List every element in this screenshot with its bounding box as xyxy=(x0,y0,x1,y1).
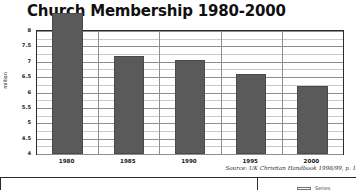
source-note: Source: UK Christian Handbook 1998/99, p… xyxy=(180,164,356,172)
footer-legend-label: Series xyxy=(315,186,330,190)
footer-legend-swatch-icon xyxy=(297,187,311,190)
x-tick-label-1980: 1980 xyxy=(36,157,97,165)
footer-cell-left xyxy=(0,178,257,190)
y-tick-label: 7.5 xyxy=(22,44,31,49)
bar-1985 xyxy=(114,56,145,154)
y-tick-label: 6 xyxy=(27,90,31,95)
bar-1995 xyxy=(236,74,267,154)
y-tick-label: 4.5 xyxy=(22,136,31,141)
y-tick-label: 8 xyxy=(27,28,31,33)
bar-series xyxy=(37,31,343,154)
y-tick-label: 5.5 xyxy=(22,105,31,110)
gridline-major xyxy=(37,154,343,155)
y-tick-label: 7 xyxy=(27,59,31,64)
chart-figure: Church Membership 1980-2000 million 87.5… xyxy=(0,0,356,190)
x-tick-label-1985: 1985 xyxy=(97,157,158,165)
bar-1990 xyxy=(175,60,206,154)
y-tick-label: 6.5 xyxy=(22,75,31,80)
y-tick-label: 4 xyxy=(27,151,31,156)
y-axis-tick-labels: 87.576.565.554.54 xyxy=(0,30,34,155)
bar-2000 xyxy=(297,86,328,154)
y-tick-label: 5 xyxy=(27,121,31,126)
plot-area xyxy=(36,30,344,155)
bar-1980 xyxy=(52,13,83,154)
